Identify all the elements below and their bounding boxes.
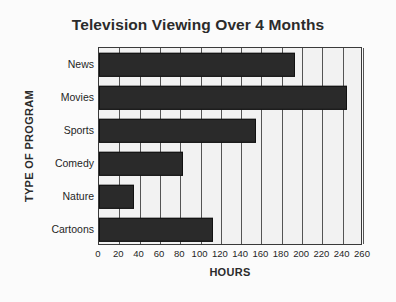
bar-chart-figure: Television Viewing Over 4 Months TYPE OF… xyxy=(0,0,396,302)
x-tick-label: 180 xyxy=(273,248,289,259)
x-tick-label: 240 xyxy=(334,248,350,259)
chart-title: Television Viewing Over 4 Months xyxy=(0,16,396,34)
x-tick-label: 200 xyxy=(293,248,309,259)
x-tick-label: 40 xyxy=(133,248,144,259)
bar-movies xyxy=(99,85,347,109)
x-axis-title: HOURS xyxy=(98,266,362,278)
x-tick-label: 160 xyxy=(253,248,269,259)
bar-sports xyxy=(99,118,256,142)
x-tick-label: 140 xyxy=(232,248,248,259)
x-tick-label: 80 xyxy=(174,248,185,259)
gridline xyxy=(363,48,364,244)
plot-area xyxy=(98,47,362,245)
bar-cartoons xyxy=(99,217,213,241)
y-axis-title: TYPE OF PROGRAM xyxy=(23,66,35,226)
category-label-news: News xyxy=(36,58,94,70)
bars-layer xyxy=(99,48,361,244)
x-axis-tick-labels: 020406080100120140160180200220240260 xyxy=(98,248,362,262)
category-label-cartoons: Cartoons xyxy=(36,223,94,235)
category-label-movies: Movies xyxy=(36,91,94,103)
category-label-nature: Nature xyxy=(36,190,94,202)
category-label-sports: Sports xyxy=(36,124,94,136)
bar-news xyxy=(99,52,295,76)
bar-nature xyxy=(99,184,134,208)
x-tick-label: 220 xyxy=(313,248,329,259)
bar-comedy xyxy=(99,151,183,175)
x-tick-label: 60 xyxy=(154,248,165,259)
x-tick-label: 260 xyxy=(354,248,370,259)
category-axis: NewsMoviesSportsComedyNatureCartoons xyxy=(36,47,94,245)
x-tick-label: 120 xyxy=(212,248,228,259)
x-tick-label: 0 xyxy=(95,248,100,259)
category-label-comedy: Comedy xyxy=(36,157,94,169)
x-tick-label: 20 xyxy=(113,248,124,259)
x-tick-label: 100 xyxy=(192,248,208,259)
